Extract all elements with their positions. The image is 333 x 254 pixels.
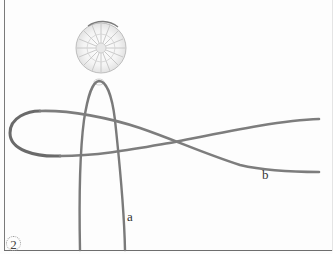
diagram-frame: a b 2: [0, 0, 333, 254]
step-number-badge: 2: [6, 236, 21, 251]
cord-b-label: b: [262, 168, 269, 181]
crystal-bead-icon: [76, 21, 126, 85]
cord-a-label: a: [127, 210, 133, 223]
cord-b-lower: [10, 111, 319, 156]
cord-a: [80, 81, 125, 250]
knot-illustration: [0, 0, 333, 254]
